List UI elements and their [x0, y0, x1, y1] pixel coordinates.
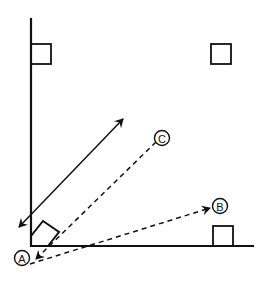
solid-double-arrow — [19, 119, 123, 227]
square-top-left — [31, 44, 51, 64]
dashed-arrow-c-to-a — [36, 142, 156, 259]
tilted-square-corner — [31, 221, 59, 246]
label-b: B — [213, 199, 228, 214]
label-a: A — [15, 251, 30, 266]
label-c-text: C — [158, 133, 166, 145]
diagram-canvas: A B C — [0, 0, 266, 283]
square-top-right — [211, 44, 231, 64]
label-a-text: A — [18, 253, 26, 265]
label-c: C — [155, 131, 170, 146]
label-b-text: B — [216, 201, 223, 213]
square-bottom-right — [213, 226, 233, 246]
diagram: A B C — [0, 0, 266, 283]
